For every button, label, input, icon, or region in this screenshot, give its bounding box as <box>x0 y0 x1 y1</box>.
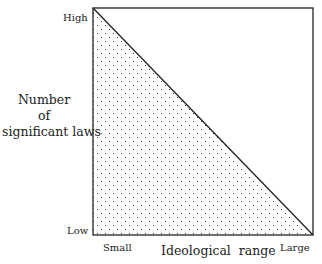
x-tick-small: Small <box>103 242 132 253</box>
y-tick-low: Low <box>67 225 88 236</box>
y-axis-title-line-3: significant laws <box>2 124 86 140</box>
y-axis-title: Number of significant laws <box>2 92 86 140</box>
y-tick-high: High <box>63 12 88 23</box>
y-axis-title-line-2: of <box>2 108 86 124</box>
x-tick-large: Large <box>280 242 310 253</box>
x-axis-title: Ideological range <box>161 243 276 258</box>
y-axis-title-line-1: Number <box>2 92 86 108</box>
